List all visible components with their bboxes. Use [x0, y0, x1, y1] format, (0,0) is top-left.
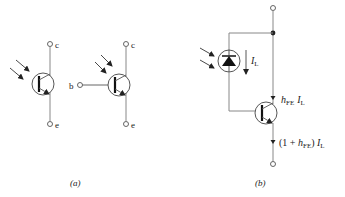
transistor-envelope: [32, 73, 54, 95]
emitter-label: e: [55, 120, 59, 130]
light-arrow-icon: [200, 48, 214, 56]
emitter-current-arrow-icon: [271, 140, 276, 144]
caption-b: (b): [255, 178, 266, 188]
light-arrow-icon: [16, 60, 29, 71]
transistor-envelope: [108, 74, 130, 96]
collector-terminal: [48, 42, 53, 47]
light-arrow-icon: [200, 60, 214, 68]
emitter-terminal: [48, 122, 53, 127]
phototransistor-two-terminal: c e: [10, 40, 59, 130]
phototransistor-three-terminal: c e b: [69, 40, 135, 130]
collector-label: c: [131, 40, 135, 50]
collector-terminal: [124, 42, 129, 47]
top-terminal: [271, 6, 276, 11]
collector-current-arrow-icon: [271, 96, 276, 100]
collector-label: c: [55, 40, 59, 50]
emitter-current-label: (1 + hFE) IL: [279, 137, 325, 150]
light-arrow-icon: [10, 68, 23, 79]
light-arrow-icon: [95, 62, 106, 73]
bottom-terminal: [271, 162, 276, 167]
photodiode-amplifier-circuit: IL hFEIL (1 + hFE) IL: [200, 6, 325, 167]
light-arrow-icon: [101, 55, 112, 66]
base-label: b: [69, 81, 74, 91]
collector-current-label: hFEIL: [281, 94, 305, 107]
photodiode-current-label: IL: [250, 55, 259, 68]
emitter-label: e: [131, 120, 135, 130]
caption-a: (a): [70, 178, 81, 188]
emitter-terminal: [124, 122, 129, 127]
base-terminal: [78, 83, 83, 88]
phototransistor-figure: c e c e b (a): [0, 0, 345, 197]
transistor-envelope: [255, 102, 277, 124]
